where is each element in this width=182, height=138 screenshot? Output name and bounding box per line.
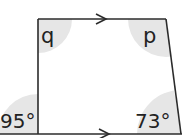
angle-label-p: p <box>143 24 156 48</box>
angle-label-q: q <box>41 24 54 48</box>
angle-label-95: 95° <box>0 109 35 133</box>
trapezium-diagram: q p 95° 73° <box>0 0 182 138</box>
angle-label-73: 73° <box>135 109 170 133</box>
